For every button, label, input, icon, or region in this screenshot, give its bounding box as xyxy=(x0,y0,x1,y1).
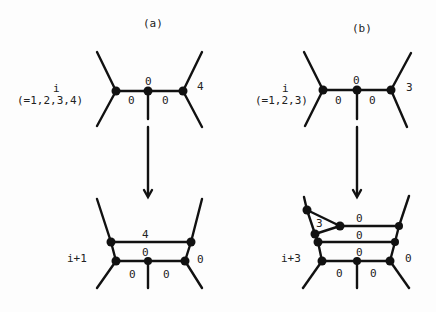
edge-label: 0 xyxy=(197,253,204,266)
edge-label: 4 xyxy=(197,80,204,93)
edge-label: 3 xyxy=(316,217,323,230)
edge-label: 0 xyxy=(145,75,152,88)
range-label: (=1,2,3,4) xyxy=(17,94,83,107)
panel-a-title: (a) xyxy=(143,17,163,30)
arrow-down-icon xyxy=(144,127,152,197)
vertex xyxy=(107,238,116,247)
panel-b: (b) i (=1,2,3) 0 0 0 3 xyxy=(255,22,413,288)
vertex xyxy=(181,257,190,266)
edge-label: 0 xyxy=(336,267,343,280)
panel-a: (a) i (=1,2,3,4) 0 0 0 4 xyxy=(17,17,204,288)
panel-b-bottom-graph: i+3 3 0 0 0 0 0 0 xyxy=(281,196,412,288)
vertex xyxy=(112,87,121,96)
edge-label: 0 xyxy=(405,252,412,265)
edge-label: 0 xyxy=(128,94,135,107)
edge-label: 0 xyxy=(142,246,149,259)
edge-label: 0 xyxy=(356,212,363,225)
panel-b-top-graph: i (=1,2,3) 0 0 0 3 xyxy=(255,52,413,127)
edge-label: 0 xyxy=(370,267,377,280)
range-label: (=1,2,3) xyxy=(255,94,308,107)
level-label: i+1 xyxy=(67,252,87,265)
edge-label: 0 xyxy=(129,268,136,281)
diagram-canvas: (a) i (=1,2,3,4) 0 0 0 4 xyxy=(0,0,436,312)
vertex xyxy=(387,86,396,95)
edge-label: 0 xyxy=(162,94,169,107)
vertex xyxy=(303,206,312,215)
vertex xyxy=(336,222,345,231)
vertex xyxy=(311,230,320,239)
vertex xyxy=(112,257,121,266)
panel-b-title: (b) xyxy=(352,22,372,35)
vertex xyxy=(386,257,395,266)
arrow-down-icon xyxy=(353,127,361,197)
diagram-svg: (a) i (=1,2,3,4) 0 0 0 4 xyxy=(0,0,436,312)
vertex xyxy=(318,257,327,266)
vertex xyxy=(179,87,188,96)
vertex xyxy=(314,238,323,247)
vertex xyxy=(319,86,328,95)
vertex xyxy=(395,222,403,230)
edge-label: 0 xyxy=(356,246,363,259)
edge-label: 0 xyxy=(369,94,376,107)
panel-a-bottom-graph: i+1 4 0 0 0 0 xyxy=(67,199,204,288)
edge-label: 0 xyxy=(353,74,360,87)
panel-a-top-graph: i (=1,2,3,4) 0 0 0 4 xyxy=(17,52,204,127)
vertex xyxy=(391,238,399,246)
edge-label: 3 xyxy=(406,81,413,94)
edge-label: 0 xyxy=(335,94,342,107)
vertex xyxy=(187,238,196,247)
edge-label: 4 xyxy=(142,228,149,241)
edge-label: 0 xyxy=(356,229,363,242)
level-label: i+3 xyxy=(281,252,301,265)
edge-label: 0 xyxy=(163,268,170,281)
